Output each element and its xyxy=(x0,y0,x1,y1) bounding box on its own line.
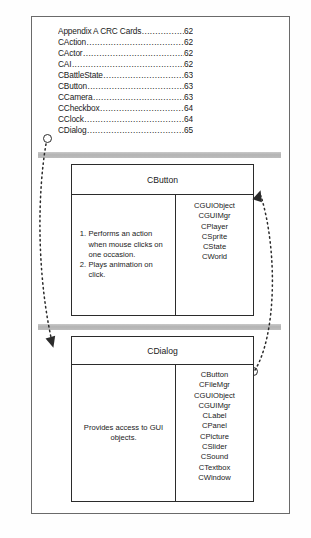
toc-entry-label: Appendix A CRC Cards xyxy=(58,26,141,37)
crc-collaborators: CButton CFileMgr CGUIObject CGUIMgr CLab… xyxy=(176,365,253,501)
toc-dot-leader: ........................................… xyxy=(84,114,183,125)
collaborator-item: CState xyxy=(178,242,251,252)
highlight-bar-top xyxy=(38,152,281,158)
toc-entry-label: CAction xyxy=(58,37,86,48)
collaborator-item: CWindow xyxy=(178,473,251,483)
collaborator-item: CTextbox xyxy=(178,463,251,473)
collaborator-item: CGUIObject xyxy=(178,201,251,211)
toc-entry-page: 64 xyxy=(184,103,193,114)
toc-entry-label: CClock xyxy=(58,114,84,125)
toc-entry[interactable]: CActor .................................… xyxy=(58,48,193,59)
toc-entry-page: 62 xyxy=(184,48,193,59)
collaborator-list: CGUIObject CGUIMgr CPlayer CSprite CStat… xyxy=(178,201,251,263)
collaborator-item: CSlider xyxy=(178,442,251,452)
toc-dot-leader: ........................................… xyxy=(72,59,184,70)
toc-dot-leader: ........................................… xyxy=(83,48,184,59)
toc-entry-label: CBattleState xyxy=(58,70,103,81)
responsibility-text: Performs an action when mouse clicks on … xyxy=(89,229,171,260)
responsibility-item: 2. Plays animation on click. xyxy=(77,260,170,280)
toc-entry-page: 62 xyxy=(184,26,193,37)
toc-entry[interactable]: CCheckbox ..............................… xyxy=(58,103,193,114)
toc-dot-leader: ........................................… xyxy=(142,26,184,37)
responsibility-text: Plays animation on click. xyxy=(89,260,171,280)
highlight-bar-bottom xyxy=(38,324,281,330)
toc-entry-label: CAI xyxy=(58,59,71,70)
collaborator-item: CPlayer xyxy=(178,222,251,232)
toc-entry-label: CDialog xyxy=(58,125,86,136)
collaborator-item: CGUIMgr xyxy=(178,401,251,411)
collaborator-item: CGUIMgr xyxy=(178,211,251,221)
collaborator-item: CWorld xyxy=(178,252,251,262)
collaborator-item-cbutton: CButton xyxy=(178,370,251,380)
collaborator-item: CLabel xyxy=(178,411,251,421)
toc-entry[interactable]: CAction ................................… xyxy=(58,37,193,48)
toc-entry-cdialog[interactable]: CDialog ................................… xyxy=(58,125,193,136)
collaborator-item: CGUIObject xyxy=(178,391,251,401)
responsibility-number: 1. xyxy=(77,229,89,260)
crc-card-title: CDialog xyxy=(72,337,253,365)
collaborator-item: CPicture xyxy=(178,432,251,442)
collaborator-item: CSound xyxy=(178,452,251,462)
toc-entry-label: CButton xyxy=(58,81,87,92)
connector-circle-icon xyxy=(43,134,52,143)
crc-card-cbutton[interactable]: CButton 1. Performs an action when mouse… xyxy=(71,164,254,316)
collaborator-list: CButton CFileMgr CGUIObject CGUIMgr CLab… xyxy=(178,370,251,483)
crc-collaborators: CGUIObject CGUIMgr CPlayer CSprite CStat… xyxy=(176,195,253,315)
crc-card-cdialog[interactable]: CDialog Provides access to GUI objects. … xyxy=(71,336,254,502)
toc-entry[interactable]: CButton ................................… xyxy=(58,81,193,92)
crc-card-body: 1. Performs an action when mouse clicks … xyxy=(72,195,253,315)
toc-entry-page: 64 xyxy=(184,114,193,125)
toc-entry[interactable]: CAI ....................................… xyxy=(58,59,193,70)
collaborator-item: CFileMgr xyxy=(178,380,251,390)
toc-dot-leader: ........................................… xyxy=(87,125,184,136)
crc-responsibilities: Provides access to GUI objects. xyxy=(72,365,176,501)
responsibility-list: 1. Performs an action when mouse clicks … xyxy=(77,229,170,280)
toc-entry-page: 63 xyxy=(184,81,193,92)
collaborator-item: CSprite xyxy=(178,232,251,242)
toc-entry-page: 63 xyxy=(184,92,193,103)
page-canvas: Appendix A CRC Cards ...................… xyxy=(0,0,311,538)
crc-card-title: CButton xyxy=(72,165,253,195)
toc-entry-label: CCamera xyxy=(58,92,92,103)
toc-entry[interactable]: Appendix A CRC Cards ...................… xyxy=(58,26,193,37)
toc-dot-leader: ........................................… xyxy=(100,103,184,114)
table-of-contents: Appendix A CRC Cards ...................… xyxy=(58,26,193,136)
toc-dot-leader: ........................................… xyxy=(93,92,184,103)
responsibility-number: 2. xyxy=(77,260,89,280)
collaborator-item: CPanel xyxy=(178,421,251,431)
toc-entry-label: CCheckbox xyxy=(58,103,100,114)
toc-entry-label: CActor xyxy=(58,48,82,59)
responsibility-item: 1. Performs an action when mouse clicks … xyxy=(77,229,170,260)
toc-entry[interactable]: CBattleState ...........................… xyxy=(58,70,193,81)
toc-entry-page: 62 xyxy=(184,37,193,48)
responsibility-text: Provides access to GUI objects. xyxy=(77,423,170,443)
toc-entry[interactable]: CCamera ................................… xyxy=(58,92,193,103)
crc-responsibilities: 1. Performs an action when mouse clicks … xyxy=(72,195,176,315)
toc-dot-leader: ........................................… xyxy=(103,70,183,81)
toc-entry-page: 63 xyxy=(184,70,193,81)
toc-entry-page: 62 xyxy=(184,59,193,70)
toc-dot-leader: ........................................… xyxy=(87,81,183,92)
toc-entry-page: 65 xyxy=(184,125,193,136)
crc-card-body: Provides access to GUI objects. CButton … xyxy=(72,365,253,501)
toc-entry[interactable]: CClock .................................… xyxy=(58,114,193,125)
toc-dot-leader: ........................................… xyxy=(87,37,184,48)
